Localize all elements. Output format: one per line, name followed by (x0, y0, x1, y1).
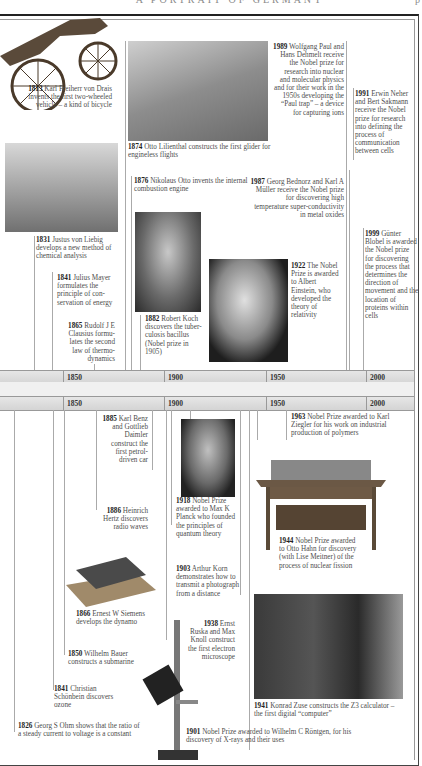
entry-1963: 1963 Nobel Prize awarded to Karl Ziegler… (291, 413, 411, 438)
glider-image (128, 41, 268, 141)
entry-1989: 1989 Wolfgang Paul and Hans Dehmelt rece… (272, 43, 344, 117)
timeline-band-lower: 1850 1900 1950 2000 (0, 396, 414, 411)
hahn-table-image (256, 455, 386, 550)
timeline-gap (0, 382, 414, 396)
entry-1882: 1882 Robert Koch discovers the tuber-cul… (145, 315, 203, 356)
dynamo-image (66, 555, 156, 610)
entry-1865: 1865 Rudolf J E Clausius formu-lates the… (60, 322, 115, 363)
entry-1918: 1918 Nobel Prize awarded to Max K Planck… (176, 497, 242, 538)
entry-1944: 1944 Nobel Prize awarded to Otto Hahn fo… (279, 537, 359, 570)
entry-1813: 1813 Karl Freiherr von Drais invents the… (24, 85, 112, 110)
entry-1991: 1991 Erwin Neher and Bert Sakmann receiv… (355, 90, 417, 156)
tick-1850-lower: 1850 (63, 397, 164, 410)
entry-1886: 1886 Heinrich Hertz discovers radio wave… (100, 507, 148, 532)
entry-1874: 1874 Otto Lilienthal constructs the firs… (128, 143, 278, 159)
koch-portrait (135, 212, 201, 312)
entry-1922: 1922 The Nobel Prize is awarded to Alber… (291, 262, 341, 319)
einstein-portrait (209, 259, 288, 362)
entry-1903: 1903 Arthur Korn demonstrates how to tra… (176, 565, 242, 598)
lab-image (5, 143, 118, 232)
entry-1831: 1831 Justus von Liebig develops a new me… (36, 236, 120, 261)
page-number: p (415, 0, 420, 5)
entry-1941: 1941 Konrad Zuse constructs the Z3 calcu… (254, 702, 404, 718)
running-title: A PORTRAIT OF GERMANY (130, 0, 330, 4)
entry-1885: 1885 Karl Benz and Gottlieb Daimler cons… (100, 415, 148, 464)
tick-1950-lower: 1950 (266, 397, 366, 410)
tick-2000-lower: 2000 (366, 397, 410, 410)
entry-1999: 1999 Günter Blobel is awarded the Nobel … (365, 230, 419, 320)
z3-computer-image (254, 594, 403, 699)
tick-1900-lower: 1900 (164, 397, 266, 410)
entry-1987: 1987 Georg Bednorz and Karl A Müller rec… (250, 178, 344, 219)
planck-portrait (181, 419, 235, 497)
entry-1841-mayer: 1841 Julius Mayer formulates the princip… (57, 274, 123, 307)
entry-1876: 1876 Nikolaus Otto invents the internal … (134, 177, 264, 193)
entry-1826: 1826 Georg S Ohm shows that the ratio of… (18, 722, 140, 738)
entry-1841-schonbein: 1841 Christian Schönbein discovers ozone (54, 685, 114, 710)
entry-1901: 1901 Nobel Prize awarded to Wilhelm C Rö… (186, 728, 366, 744)
